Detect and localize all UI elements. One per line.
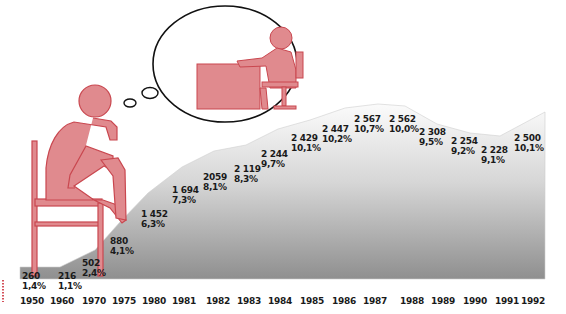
- data-label-1970: 5022,4%: [82, 258, 106, 278]
- x-tick-1980: 1980: [142, 296, 166, 306]
- x-tick-1991: 1991: [495, 296, 519, 306]
- data-label-1989: 2 3089,5%: [419, 127, 446, 147]
- x-tick-1982: 1982: [206, 296, 230, 306]
- x-tick-1986: 1986: [332, 296, 356, 306]
- x-tick-1984: 1984: [268, 296, 292, 306]
- x-tick-1987: 1987: [363, 296, 387, 306]
- data-label-1981: 1 6947,3%: [172, 185, 199, 205]
- x-tick-1988: 1988: [400, 296, 424, 306]
- x-tick-1983: 1983: [237, 296, 261, 306]
- data-label-1984: 2 2449,7%: [261, 149, 288, 169]
- data-label-1986: 2 44710,2%: [322, 124, 352, 144]
- data-label-1983: 2 1198,3%: [234, 164, 261, 184]
- data-label-1988: 2 56210,0%: [389, 114, 419, 134]
- data-label-1960: 2161,1%: [58, 271, 82, 291]
- data-label-1992: 2 50010,1%: [514, 133, 544, 153]
- x-tick-1950: 1950: [20, 296, 44, 306]
- data-label-1982: 20598,1%: [203, 172, 227, 192]
- x-tick-1981: 1981: [172, 296, 196, 306]
- x-tick-1992: 1992: [521, 296, 545, 306]
- x-tick-1989: 1989: [431, 296, 455, 306]
- data-label-1990: 2 2549,2%: [451, 136, 478, 156]
- thought-bubble-dot-small: [124, 99, 136, 107]
- x-tick-1960: 1960: [50, 296, 74, 306]
- data-label-1980: 1 4526,3%: [141, 209, 168, 229]
- data-label-1987: 2 56710,7%: [354, 114, 384, 134]
- data-label-1975: 8804,1%: [110, 236, 134, 256]
- data-label-1950: 2601,4%: [22, 271, 46, 291]
- x-tick-1970: 1970: [82, 296, 106, 306]
- x-tick-1975: 1975: [112, 296, 136, 306]
- x-tick-1985: 1985: [300, 296, 324, 306]
- thought-bubble-dot-large: [142, 88, 158, 99]
- x-tick-1990: 1990: [463, 296, 487, 306]
- data-label-1991: 2 2289,1%: [481, 145, 508, 165]
- data-label-1985: 2 42910,1%: [291, 133, 321, 153]
